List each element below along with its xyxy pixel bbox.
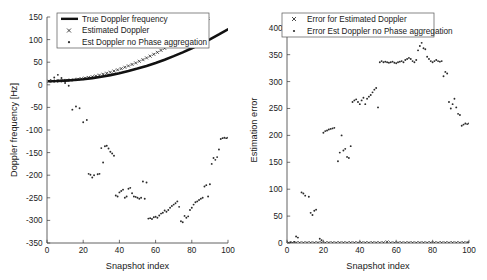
legend-label: Est Doppler no Phase aggregation (82, 38, 208, 47)
marker-dot (457, 113, 459, 115)
marker-dot (433, 60, 435, 62)
marker-dot (326, 130, 328, 132)
marker-dot (420, 42, 422, 44)
marker-x (152, 53, 155, 56)
marker-dot (50, 79, 52, 81)
marker-dot (438, 61, 440, 63)
marker-dot (426, 56, 428, 58)
marker-dot (178, 206, 180, 208)
legend-item: Error for Estimated Doppler (292, 15, 407, 24)
legend-label: True Doppler frequency (82, 15, 169, 24)
marker-dot (111, 153, 113, 155)
marker-dot (211, 163, 213, 165)
marker-dot (315, 209, 317, 211)
legend-label: Error Est Doppler no Phase aggregation (307, 27, 453, 36)
marker-dot (342, 150, 344, 152)
marker-dot (222, 137, 224, 139)
marker-dot (138, 198, 140, 200)
marker-dot (360, 99, 362, 101)
marker-dot (400, 60, 402, 62)
marker-dot (357, 101, 359, 103)
y-tick-label: 50 (273, 212, 283, 221)
y-tick-label: -300 (26, 216, 43, 225)
marker-dot (133, 195, 135, 197)
marker-dot (79, 107, 81, 109)
marker-dot (296, 237, 298, 239)
marker-dot (380, 60, 382, 62)
marker-dot (453, 98, 455, 100)
marker-dot (146, 181, 148, 183)
marker-dot (358, 103, 360, 105)
marker-dot (464, 123, 466, 125)
marker-dot (458, 114, 460, 116)
marker-dot (220, 138, 222, 140)
marker-dot (156, 217, 158, 219)
marker-dot (158, 214, 160, 216)
marker-dot (346, 156, 348, 158)
marker-dot (223, 137, 225, 139)
marker-dot (333, 127, 335, 129)
marker-dot (431, 61, 433, 63)
marker-dot (82, 121, 84, 123)
y-tick-label: 100 (268, 185, 282, 194)
marker-dot (160, 213, 162, 215)
marker-dot (386, 61, 388, 63)
marker-dot (216, 156, 218, 158)
right-plot-svg: 020406080100050100150200250300350400Snap… (244, 0, 487, 280)
marker-x (156, 51, 159, 54)
x-axis-title: Snapshot index (346, 261, 410, 271)
marker-dot (137, 197, 139, 199)
y-tick-label: 350 (268, 51, 282, 60)
marker-dot (155, 216, 157, 218)
marker-dot (440, 60, 442, 62)
marker-x (210, 14, 213, 17)
marker-dot (213, 157, 215, 159)
marker-dot (162, 212, 164, 214)
marker-dot (418, 45, 420, 47)
x-tick-label: 80 (187, 246, 197, 255)
marker-dot (311, 214, 313, 216)
marker-dot (307, 196, 309, 198)
marker-dot (99, 173, 101, 175)
legend: True Doppler frequencyEstimated DopplerE… (57, 13, 209, 48)
marker-dot (68, 85, 70, 87)
marker-dot (104, 145, 106, 147)
marker-dot (340, 134, 342, 136)
marker-dot (422, 47, 424, 49)
marker-dot (344, 148, 346, 150)
marker-dot (378, 61, 380, 63)
y-tick-label: 100 (29, 36, 43, 45)
marker-dot (204, 186, 206, 188)
marker-dot (135, 196, 137, 198)
marker-dot (369, 94, 371, 96)
series-2 (289, 42, 469, 244)
marker-dot (444, 71, 446, 73)
marker-dot (371, 91, 373, 93)
marker-dot (91, 177, 93, 179)
marker-dot (417, 49, 419, 51)
marker-dot (355, 98, 357, 100)
marker-dot (397, 61, 399, 63)
y-tick-label: 400 (268, 24, 282, 33)
marker-dot (389, 61, 391, 63)
marker-dot (61, 77, 63, 79)
marker-dot (173, 204, 175, 206)
marker-dot (349, 145, 351, 147)
marker-dot (411, 60, 413, 62)
marker-dot (86, 119, 88, 121)
x-tick-label: 20 (318, 246, 328, 255)
marker-dot (382, 61, 384, 63)
y-axis-title: Estimation error (249, 98, 259, 163)
marker-dot (184, 215, 186, 217)
marker-dot (171, 205, 173, 207)
y-tick-label: 0 (277, 239, 282, 248)
marker-dot (153, 216, 155, 218)
marker-dot (318, 238, 320, 240)
x-tick-label: 0 (45, 246, 50, 255)
marker-dot (300, 191, 302, 193)
marker-x (214, 11, 217, 14)
marker-dot (198, 199, 200, 201)
marker-x (131, 63, 134, 66)
marker-dot (446, 73, 448, 75)
marker-dot (227, 137, 229, 139)
